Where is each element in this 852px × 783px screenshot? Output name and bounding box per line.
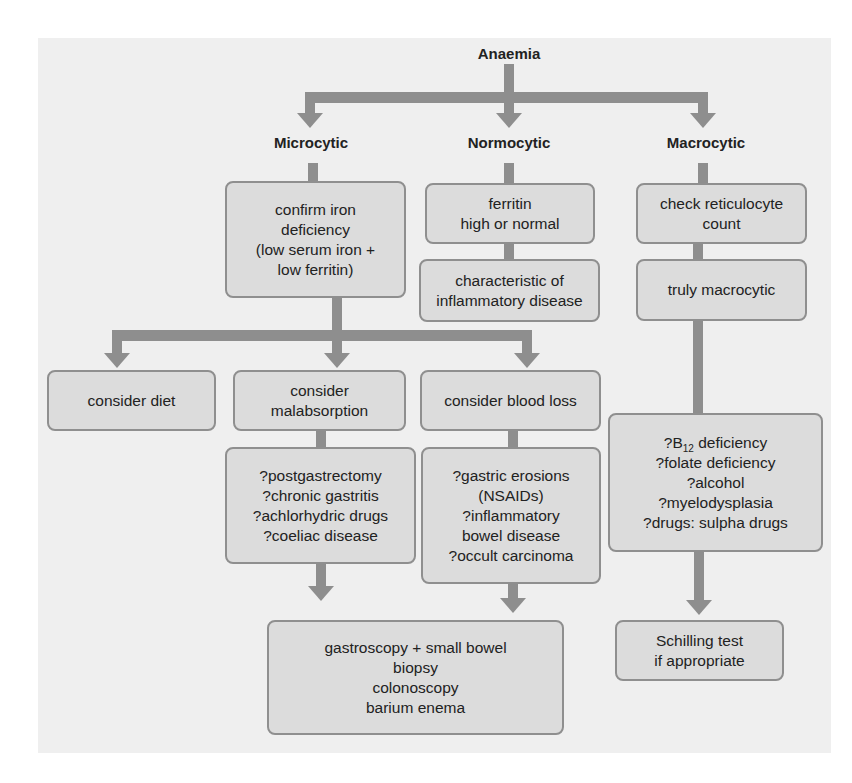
- box-text: ?folate deficiency: [656, 453, 776, 473]
- box-text: check reticulocyte: [660, 194, 783, 214]
- connector-macro-stem: [698, 163, 708, 183]
- box-text: biopsy: [393, 658, 438, 678]
- connector-bloodloss-causes: [508, 431, 518, 448]
- connector-micro-stem: [308, 163, 318, 183]
- arrow-head-icon: [500, 598, 526, 613]
- box-text: (low serum iron +: [256, 240, 375, 260]
- box-text: Schilling test: [656, 631, 743, 651]
- box-text: count: [703, 214, 741, 234]
- box-inflammatory-disease: characteristic of inflammatory disease: [419, 259, 600, 322]
- box-text: consider diet: [88, 391, 176, 411]
- box-text: ?occult carcinoma: [449, 546, 574, 566]
- box-text: consider blood loss: [444, 391, 577, 411]
- connector-micro-drop: [305, 92, 315, 114]
- box-text: ferritin: [488, 194, 531, 214]
- box-text: deficiency: [281, 220, 350, 240]
- b12-suffix: deficiency: [694, 434, 767, 451]
- connector-bloodloss-drop: [522, 330, 532, 354]
- connector-malabs-drop: [332, 330, 342, 354]
- box-text: low ferritin): [278, 260, 354, 280]
- box-consider-malabsorption: consider malabsorption: [233, 370, 406, 431]
- box-text: ?inflammatory: [462, 506, 559, 526]
- box-consider-blood-loss: consider blood loss: [420, 370, 601, 431]
- connector-normo-mid: [504, 244, 514, 260]
- box-text: gastroscopy + small bowel: [324, 638, 506, 658]
- box-text: colonoscopy: [372, 678, 458, 698]
- box-text-b12: ?B12 deficiency: [664, 433, 767, 453]
- box-text: ?coeliac disease: [263, 526, 378, 546]
- box-malabsorption-causes: ?postgastrectomy ?chronic gastritis ?ach…: [225, 447, 416, 564]
- box-text: high or normal: [460, 214, 559, 234]
- box-text: ?alcohol: [687, 473, 745, 493]
- box-ferritin-high-normal: ferritin high or normal: [425, 183, 595, 244]
- connector-bloodloss-to-invest: [508, 583, 518, 599]
- box-text: if appropriate: [654, 651, 744, 671]
- box-text: ?myelodysplasia: [658, 493, 773, 513]
- box-schilling-test: Schilling test if appropriate: [615, 620, 784, 681]
- box-macrocytic-causes: ?B12 deficiency ?folate deficiency ?alco…: [608, 413, 823, 552]
- box-text: bowel disease: [462, 526, 560, 546]
- connector-macro-to-schilling: [694, 551, 704, 601]
- connector-macro-drop: [698, 92, 708, 114]
- connector-normo-stem: [504, 163, 514, 183]
- connector-malabs-causes: [316, 431, 326, 448]
- box-blood-loss-causes: ?gastric erosions (NSAIDs) ?inflammatory…: [421, 447, 601, 584]
- arrow-head-icon: [297, 113, 323, 128]
- arrow-head-icon: [686, 600, 712, 615]
- box-truly-macrocytic: truly macrocytic: [636, 259, 807, 321]
- box-text: ?achlorhydric drugs: [253, 506, 388, 526]
- box-text: ?gastric erosions: [452, 466, 569, 486]
- box-text: malabsorption: [271, 401, 368, 421]
- box-consider-diet: consider diet: [47, 370, 216, 431]
- label-macrocytic: Macrocytic: [667, 134, 745, 151]
- box-check-reticulocyte: check reticulocyte count: [636, 183, 807, 244]
- box-text: barium enema: [366, 698, 465, 718]
- box-text: (NSAIDs): [478, 486, 543, 506]
- box-text: ?postgastrectomy: [259, 466, 381, 486]
- connector-malabs-to-invest: [316, 563, 326, 587]
- box-investigations: gastroscopy + small bowel biopsy colonos…: [267, 620, 564, 735]
- root-label-anaemia: Anaemia: [478, 45, 541, 62]
- connector-normo-drop: [504, 92, 514, 114]
- arrow-head-icon: [496, 113, 522, 128]
- arrow-head-icon: [324, 353, 350, 368]
- connector-diet-drop: [112, 330, 122, 354]
- label-normocytic: Normocytic: [468, 134, 551, 151]
- arrow-head-icon: [690, 113, 716, 128]
- box-confirm-iron-deficiency: confirm iron deficiency (low serum iron …: [225, 181, 406, 298]
- box-text: consider: [290, 381, 349, 401]
- box-text: confirm iron: [275, 200, 356, 220]
- arrow-head-icon: [104, 353, 130, 368]
- box-text: inflammatory disease: [436, 291, 582, 311]
- connector-macro-long: [693, 321, 703, 414]
- connector-macro-mid: [693, 244, 703, 260]
- arrow-head-icon: [514, 353, 540, 368]
- label-microcytic: Microcytic: [274, 134, 348, 151]
- box-text: ?drugs: sulpha drugs: [643, 513, 788, 533]
- box-text: ?chronic gastritis: [262, 486, 378, 506]
- box-text: characteristic of: [455, 271, 564, 291]
- connector-micro-split-horizontal: [112, 330, 532, 341]
- arrow-head-icon: [308, 586, 334, 601]
- b12-prefix: ?B: [664, 434, 683, 451]
- box-text: truly macrocytic: [668, 280, 776, 300]
